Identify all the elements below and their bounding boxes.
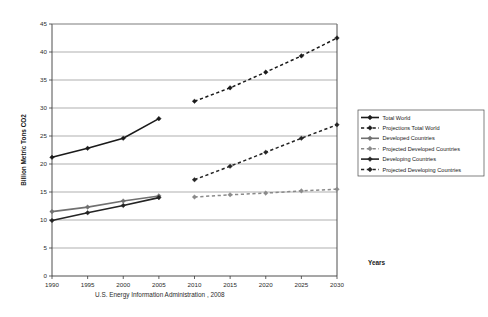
data-point-marker: [228, 86, 233, 91]
data-point-marker: [192, 99, 197, 104]
x-axis-tick-label: 2000: [116, 281, 130, 288]
x-axis-tick-label: 2005: [152, 281, 166, 288]
data-point-marker: [85, 205, 90, 210]
chart-source-caption: U.S. Energy Information Administration ,…: [95, 291, 225, 299]
data-point-marker: [263, 70, 268, 75]
chart-svg: 0510152025303540451990199520002005201020…: [0, 0, 488, 317]
legend-item-label-1: Projections Total World: [383, 125, 440, 131]
y-axis-tick-label: 35: [40, 76, 47, 83]
data-point-marker: [192, 177, 197, 182]
legend-item-label-4: Developing Countries: [383, 156, 437, 162]
data-point-marker: [50, 155, 55, 160]
data-point-marker: [121, 203, 126, 208]
x-axis-tick-label: 2010: [188, 281, 202, 288]
y-axis-tick-label: 25: [40, 132, 47, 139]
data-point-marker: [85, 146, 90, 151]
y-axis-tick-label: 5: [44, 244, 48, 251]
data-point-marker: [299, 189, 304, 194]
co2-emissions-chart: 0510152025303540451990199520002005201020…: [0, 0, 488, 317]
x-axis-tick-label: 2015: [223, 281, 237, 288]
x-axis-tick-label: 1990: [45, 281, 59, 288]
x-axis-tick-label: 2030: [330, 281, 344, 288]
data-point-marker: [50, 218, 55, 223]
data-point-marker: [228, 164, 233, 169]
data-point-marker: [50, 209, 55, 214]
x-axis-tick-label: 2025: [294, 281, 308, 288]
data-point-marker: [85, 210, 90, 215]
y-axis-tick-label: 20: [40, 160, 47, 167]
legend-item-label-2: Developed Countries: [383, 135, 435, 141]
y-axis-tick-label: 40: [40, 48, 47, 55]
y-axis-tick-label: 30: [40, 104, 47, 111]
x-axis-title: Years: [368, 259, 386, 266]
legend-item-label-3: Projected Developed Countries: [383, 146, 461, 152]
data-point-marker: [121, 199, 126, 204]
data-point-marker: [335, 123, 340, 128]
y-axis-tick-label: 15: [40, 188, 47, 195]
y-axis-title: Billion Metric Tons CO2: [20, 114, 27, 186]
y-axis-tick-label: 10: [40, 216, 47, 223]
y-axis-tick-label: 0: [44, 272, 48, 279]
y-axis-tick-label: 45: [40, 20, 47, 27]
series-line-0: [52, 119, 159, 158]
data-point-marker: [192, 195, 197, 200]
legend-item-label-5: Projected Developing Countries: [383, 167, 462, 173]
data-point-marker: [228, 193, 233, 198]
legend-item-label-0: Total World: [383, 115, 411, 121]
data-point-marker: [335, 187, 340, 192]
data-point-marker: [263, 191, 268, 196]
data-point-marker: [263, 150, 268, 155]
data-point-marker: [299, 136, 304, 141]
x-axis-tick-label: 1995: [81, 281, 95, 288]
x-axis-tick-label: 2020: [259, 281, 273, 288]
